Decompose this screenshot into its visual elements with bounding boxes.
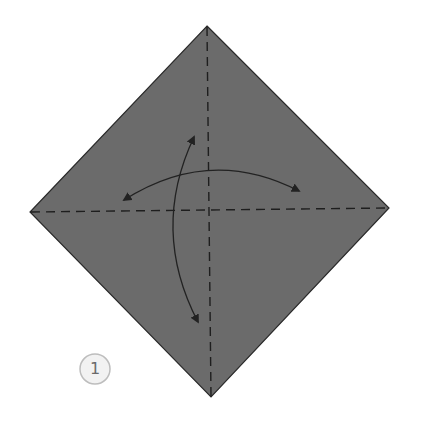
step-number-label: 1 — [80, 359, 110, 379]
origami-diagram — [0, 0, 421, 425]
